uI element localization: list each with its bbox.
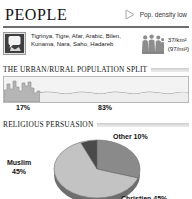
rural-percent-label: 83% <box>98 104 112 111</box>
religion-section-title: RELIGIOUS PERSUASION <box>3 120 189 129</box>
pie-label-muslim-name: Muslim <box>7 159 31 168</box>
urban-rural-section-title: THE URBAN/RURAL POPULATION SPLIT <box>3 65 189 74</box>
religion-pie-area: Other 10% Muslim 45% Christian 45% <box>3 131 189 199</box>
religion-title-text: RELIGIOUS PERSUASION <box>3 120 93 129</box>
religion-pie-chart <box>47 135 147 199</box>
speech-bubble-icon <box>3 32 26 55</box>
urban-rural-chart <box>3 76 189 103</box>
info-row: Tigrinya, Tigre, Afar, Arabic, Bilen, Ku… <box>3 32 189 60</box>
density-metric: 37/km² <box>168 36 189 45</box>
title-rule <box>97 123 189 127</box>
density-imperial: (97/mi²) <box>168 45 189 54</box>
urban-rural-title-text: THE URBAN/RURAL POPULATION SPLIT <box>3 65 147 74</box>
page-title: PEOPLE <box>3 7 67 23</box>
density-tag: Pop. density low <box>125 9 189 20</box>
languages-text: Tigrinya, Tigre, Afar, Arabic, Bilen, Ku… <box>31 32 142 48</box>
pie-label-muslim-pct: 45% <box>7 168 31 177</box>
pie-label-muslim: Muslim 45% <box>7 159 31 176</box>
crowd-icon <box>142 34 164 54</box>
density-tag-label: Pop. density low <box>140 11 187 18</box>
urban-percent-label: 17% <box>16 104 30 111</box>
triangle-right-icon <box>125 9 135 20</box>
density-block: 37/km² (97/mi²) <box>142 32 189 54</box>
page-header: PEOPLE Pop. density low <box>3 3 189 28</box>
title-rule <box>151 68 189 72</box>
pie-label-christian: Christian 45% <box>121 195 167 199</box>
density-values: 37/km² (97/mi²) <box>168 34 189 53</box>
pie-label-other: Other 10% <box>113 133 148 142</box>
urban-rural-labels: 17% 83% <box>3 104 189 115</box>
